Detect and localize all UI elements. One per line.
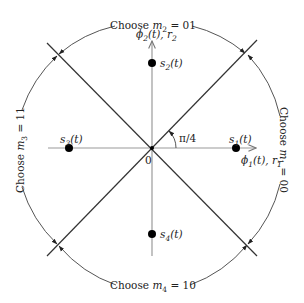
region-label-m3: Choose m3 = 11 (14, 107, 29, 193)
svg-text:Choose m3 = 11: Choose m3 = 11 (14, 107, 29, 193)
arc-bottom-right (190, 245, 247, 285)
signal-label-s1: s1(t) (229, 133, 252, 148)
svg-text:Choose m1 = 00: Choose m1 = 00 (276, 107, 291, 193)
arc-top-right (192, 26, 245, 53)
angle-arc (169, 131, 176, 148)
region-label-m4: Choose m4 = 10 (110, 279, 196, 294)
arc-bottom-left (59, 246, 116, 285)
arc-top-left (59, 26, 115, 54)
qpsk-decision-diagram: s1(t) s2(t) s3(t) s4(t) ϕ1(t), r1 ϕ2(t),… (0, 0, 304, 303)
arc-left-top (22, 56, 57, 110)
origin-label: 0 (145, 154, 152, 166)
origin-point (150, 146, 154, 150)
signal-point-s2 (148, 59, 156, 67)
arc-right-top (248, 55, 280, 116)
angle-label: π/4 (179, 132, 196, 144)
region-label-m1: Choose m1 = 00 (276, 107, 291, 193)
arc-right-bottom (248, 184, 280, 244)
signal-label-s2: s2(t) (160, 57, 183, 72)
arc-left-bottom (22, 187, 57, 244)
signal-point-s4 (148, 230, 156, 238)
svg-text:Choose m4 = 10: Choose m4 = 10 (110, 279, 196, 294)
signal-label-s4: s4(t) (160, 228, 183, 243)
